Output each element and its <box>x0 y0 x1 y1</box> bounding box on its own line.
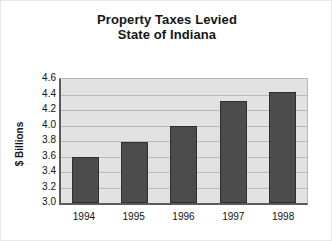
y-tick-label: 4.4 <box>34 89 56 99</box>
bar-series <box>61 79 307 203</box>
y-axis-tick-labels: 4.64.44.24.03.83.63.43.23.0 <box>34 73 56 206</box>
bar-1994 <box>72 157 99 204</box>
chart-title-line-1: Property Taxes Levied <box>1 12 332 27</box>
y-tick-label: 3.4 <box>34 166 56 176</box>
plot-area <box>59 78 308 205</box>
y-axis-label: $ Billions <box>14 107 25 181</box>
x-axis-tick-labels: 19941995199619971998 <box>59 211 308 222</box>
chart-figure: Property Taxes Levied State of Indiana $… <box>0 0 332 241</box>
x-tick-label: 1994 <box>64 211 104 222</box>
y-tick-label: 3.8 <box>34 135 56 145</box>
y-tick-label: 3.2 <box>34 182 56 192</box>
bar-1996 <box>170 126 197 204</box>
chart-title: Property Taxes Levied State of Indiana <box>1 12 332 42</box>
y-tick-label: 3.6 <box>34 151 56 161</box>
bar-1997 <box>220 101 247 203</box>
y-tick-label: 4.2 <box>34 104 56 114</box>
bar-1995 <box>121 142 148 203</box>
x-tick-label: 1995 <box>114 211 154 222</box>
x-tick-label: 1998 <box>263 211 303 222</box>
chart-title-line-2: State of Indiana <box>1 27 332 42</box>
bar-1998 <box>269 92 296 203</box>
x-tick-label: 1996 <box>163 211 203 222</box>
y-tick-label: 4.0 <box>34 120 56 130</box>
y-tick-label: 4.6 <box>34 73 56 83</box>
y-tick-label: 3.0 <box>34 197 56 207</box>
x-tick-label: 1997 <box>213 211 253 222</box>
